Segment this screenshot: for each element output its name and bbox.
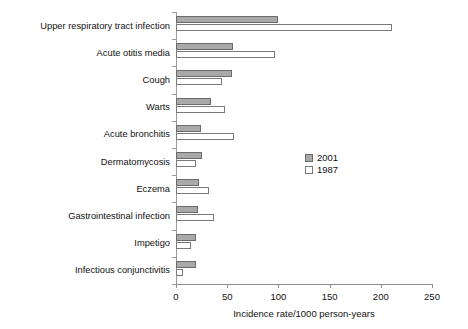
plot-area: Upper respiratory tract infectionAcute o… (176, 12, 432, 284)
x-axis-title: Incidence rate/1000 person-years (176, 308, 432, 319)
category-label: Warts (0, 102, 170, 112)
bar-1987 (176, 24, 392, 31)
bar-1987 (176, 187, 209, 194)
bar-2001 (176, 16, 278, 23)
bar-2001 (176, 261, 196, 268)
bar-1987 (176, 160, 196, 167)
bar-row: Impetigo (176, 230, 432, 257)
category-tick (172, 39, 176, 40)
chart-legend: 2001 1987 (305, 152, 338, 176)
bar-2001 (176, 98, 211, 105)
value-tick-label: 50 (222, 291, 233, 302)
category-label: Acute otitis media (0, 48, 170, 58)
bar-2001 (176, 125, 201, 132)
bar-2001 (176, 152, 202, 159)
value-axis-line (176, 284, 433, 285)
bar-2001 (176, 179, 199, 186)
value-tick-label: 0 (173, 291, 178, 302)
bar-1987 (176, 106, 225, 113)
bar-1987 (176, 242, 191, 249)
bar-2001 (176, 43, 233, 50)
bar-2001 (176, 70, 232, 77)
open-white-swatch-icon (305, 166, 313, 174)
filled-gray-swatch-icon (305, 154, 313, 162)
value-tick-label: 250 (424, 291, 440, 302)
bar-row: Dermatomycosis (176, 148, 432, 175)
bar-row: Gastrointestinal infection (176, 202, 432, 229)
category-tick (172, 175, 176, 176)
category-label: Cough (0, 75, 170, 85)
bar-row: Upper respiratory tract infection (176, 12, 432, 39)
category-tick (172, 121, 176, 122)
value-tick (330, 284, 331, 288)
category-label: Impetigo (0, 238, 170, 248)
category-label: Infectious conjunctivitis (0, 265, 170, 275)
category-tick (172, 66, 176, 67)
value-tick (381, 284, 382, 288)
category-label: Eczema (0, 184, 170, 194)
bar-2001 (176, 234, 196, 241)
bar-1987 (176, 51, 275, 58)
category-label: Upper respiratory tract infection (0, 21, 170, 31)
bar-row: Warts (176, 94, 432, 121)
bar-1987 (176, 78, 222, 85)
value-tick (278, 284, 279, 288)
value-tick (227, 284, 228, 288)
bar-row: Cough (176, 66, 432, 93)
incidence-rate-bar-chart: Upper respiratory tract infectionAcute o… (0, 0, 468, 329)
category-tick (172, 202, 176, 203)
bar-1987 (176, 133, 234, 140)
value-tick-label: 150 (322, 291, 338, 302)
legend-item-1987: 1987 (305, 164, 338, 176)
bar-row: Acute otitis media (176, 39, 432, 66)
bar-2001 (176, 206, 198, 213)
bar-row: Eczema (176, 175, 432, 202)
bar-1987 (176, 269, 183, 276)
category-tick (172, 12, 176, 13)
bar-row: Infectious conjunctivitis (176, 257, 432, 284)
value-tick-label: 200 (373, 291, 389, 302)
category-label: Acute bronchitis (0, 129, 170, 139)
category-tick (172, 148, 176, 149)
category-tick (172, 230, 176, 231)
bar-1987 (176, 214, 214, 221)
category-tick (172, 94, 176, 95)
legend-label-1987: 1987 (317, 164, 338, 176)
value-tick-label: 100 (270, 291, 286, 302)
category-label: Gastrointestinal infection (0, 211, 170, 221)
bar-row: Acute bronchitis (176, 121, 432, 148)
category-tick (172, 257, 176, 258)
category-label: Dermatomycosis (0, 157, 170, 167)
value-tick (176, 284, 177, 288)
legend-label-2001: 2001 (317, 152, 338, 164)
value-tick (432, 284, 433, 288)
legend-item-2001: 2001 (305, 152, 338, 164)
